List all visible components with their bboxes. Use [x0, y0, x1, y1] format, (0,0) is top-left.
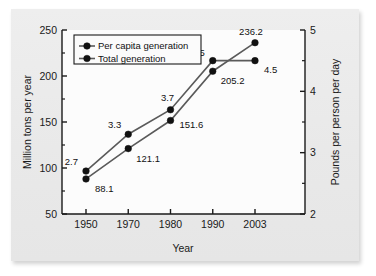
tick-label: 1970	[117, 218, 141, 230]
data-point-label: 236.2	[239, 26, 263, 37]
y-axis-right-tick-labels: 5432	[310, 24, 316, 220]
data-point-marker[interactable]	[252, 57, 259, 64]
data-point-marker[interactable]	[167, 117, 174, 124]
legend[interactable]: Per capita generationTotal generation	[74, 35, 201, 64]
data-point-label: 3.7	[161, 92, 174, 103]
legend-swatch-marker	[84, 43, 91, 50]
tick-label: 200	[39, 70, 57, 82]
tick-label: 100	[39, 162, 57, 174]
tick-label: 2003	[243, 218, 267, 230]
data-point-marker[interactable]	[252, 39, 259, 46]
tick-label: 150	[39, 116, 57, 128]
y-axis-left-title: Million tons per year	[21, 75, 33, 169]
data-point-marker[interactable]	[125, 131, 132, 138]
x-axis-tick-labels: 19501970198019902003	[74, 218, 267, 230]
tick-label: 50	[45, 208, 57, 220]
data-point-marker[interactable]	[167, 106, 174, 113]
data-point-marker[interactable]	[83, 176, 90, 183]
tick-label: 4	[310, 85, 316, 97]
data-point-label: 2.7	[65, 156, 78, 167]
data-point-marker[interactable]	[209, 57, 216, 64]
tick-label: 1950	[74, 218, 98, 230]
tick-label: 1980	[159, 218, 183, 230]
data-point-marker[interactable]	[125, 145, 132, 152]
tick-label: 2	[310, 208, 316, 220]
y-axis-left-tick-labels: 25020015010050	[39, 24, 57, 220]
tick-label: 5	[310, 24, 316, 36]
data-point-label: 88.1	[95, 183, 114, 194]
data-point-label: 151.6	[180, 119, 204, 130]
tick-label: 3	[310, 146, 316, 158]
legend-swatch-marker	[84, 55, 91, 62]
data-point-label: 4.5	[264, 64, 277, 75]
x-axis-title: Year	[172, 242, 194, 254]
data-point-label: 205.2	[221, 75, 245, 86]
line-chart: 25020015010050 5432 19501970198019902003…	[11, 9, 359, 261]
data-point-label: 121.1	[136, 153, 160, 164]
figure-root: 25020015010050 5432 19501970198019902003…	[0, 0, 376, 276]
legend-label: Per capita generation	[98, 40, 188, 51]
legend-label: Total generation	[98, 53, 166, 64]
data-point-marker[interactable]	[83, 168, 90, 175]
chart-card: 25020015010050 5432 19501970198019902003…	[11, 9, 359, 261]
y-axis-right-title: Pounds per person per day	[329, 58, 341, 185]
data-point-label: 3.3	[108, 119, 121, 130]
tick-label: 250	[39, 24, 57, 36]
data-point-marker[interactable]	[209, 68, 216, 75]
tick-label: 1990	[201, 218, 225, 230]
